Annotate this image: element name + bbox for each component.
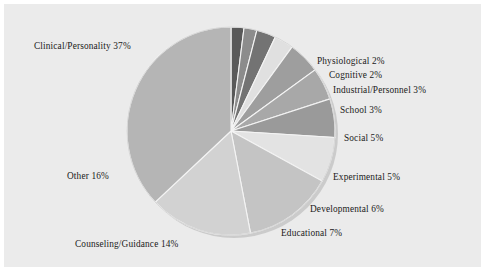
slice-label-school: School 3% xyxy=(340,105,382,115)
slice-label-cognitive: Cognitive 2% xyxy=(329,70,382,80)
slice-label-clinical-personality: Clinical/Personality 37% xyxy=(34,41,131,51)
slice-label-counseling-guidance: Counseling/Guidance 14% xyxy=(75,239,178,249)
slice-label-other: Other 16% xyxy=(67,171,109,181)
pie-slice-group xyxy=(127,27,335,235)
slice-label-social: Social 5% xyxy=(344,133,383,143)
slice-label-industrial-personnel: Industrial/Personnel 3% xyxy=(333,85,426,95)
slice-label-physiological: Physiological 2% xyxy=(317,56,385,66)
figure-page: Clinical/Personality 37% Physiological 2… xyxy=(0,0,485,271)
slice-label-educational: Educational 7% xyxy=(281,228,342,238)
slice-label-experimental: Experimental 5% xyxy=(333,172,400,182)
slice-label-developmental: Developmental 6% xyxy=(310,204,384,214)
